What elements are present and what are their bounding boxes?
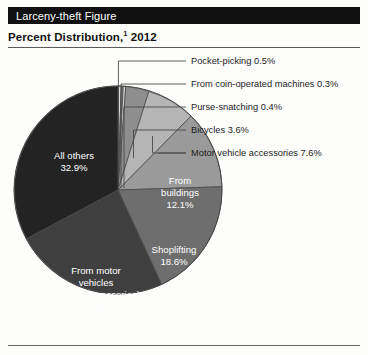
slice-label-all-others-line1: All others (54, 150, 94, 161)
slice-label-shoplifting-value: 18.6% (160, 256, 188, 267)
callout-label-motor-vehicle-accessories: Motor vehicle accessories 7.6% (191, 148, 322, 158)
chart-area: Pocket-picking 0.5% From coin-operated m… (0, 48, 368, 345)
callout-label-pocket-picking: Pocket-picking 0.5% (191, 56, 275, 66)
figure-title-bar: Larceny-theft Figure (8, 7, 360, 24)
slice-label-from-motor-vehicles-line1: From motor (71, 265, 121, 276)
slice-label-from-buildings-line1: From (169, 175, 191, 186)
callout-label-bicycles: Bicycles 3.6% (191, 125, 249, 135)
slice-label-all-others-value: 32.9% (60, 162, 88, 173)
subtitle-text: Percent Distribution, (8, 31, 123, 43)
slice-label-from-motor-vehicles-line3: (except accessories) (52, 289, 140, 300)
subtitle-footnote-marker: 1 (123, 29, 127, 38)
callout-label-purse-snatching: Purse-snatching 0.4% (191, 102, 282, 112)
subtitle-year: 2012 (131, 31, 157, 43)
slice-label-from-motor-vehicles-value: 24.0% (82, 301, 110, 312)
slice-label-shoplifting-line1: Shoplifting (152, 244, 197, 255)
slice-label-from-motor-vehicles-line2: vehicles (79, 277, 114, 288)
figure-subtitle: Percent Distribution,1 2012 (8, 29, 157, 43)
slice-label-from-buildings-value: 12.1% (166, 199, 194, 210)
figure-title: Larceny-theft Figure (8, 10, 116, 22)
slice-label-from-buildings-line2: buildings (161, 187, 199, 198)
pie-chart-svg: Pocket-picking 0.5% From coin-operated m… (0, 48, 368, 345)
rule-figure-bottom (8, 345, 360, 346)
callout-label-coin-operated-machines: From coin-operated machines 0.3% (191, 79, 338, 89)
figure-root: Larceny-theft Figure Percent Distributio… (0, 0, 368, 355)
